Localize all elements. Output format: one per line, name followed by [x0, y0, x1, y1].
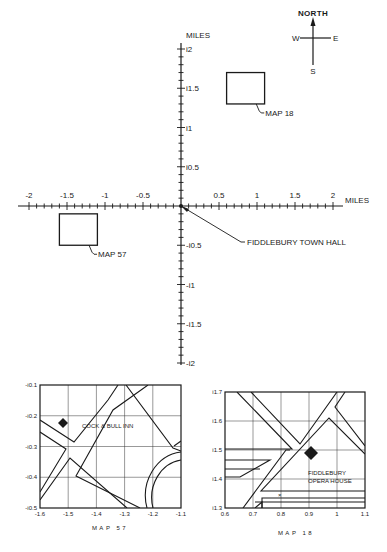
road	[40, 458, 127, 508]
map-57-region[interactable]	[59, 214, 97, 245]
road	[40, 432, 66, 492]
x-tick-label: 0.5	[213, 191, 225, 200]
main-chart: -2-1.5-1-0.50.511.52i2i1.5i1i0.5-i0.5-i1…	[18, 31, 369, 368]
town-hall-arrow-icon	[181, 206, 189, 212]
y-tick-label: i1.4	[212, 476, 222, 482]
road	[262, 498, 365, 508]
y-tick-label: i1.6	[212, 418, 222, 424]
x-tick-label: 1.5	[289, 191, 301, 200]
compass: NORTH S E W	[292, 9, 338, 76]
x-tick-label: 0.7	[249, 511, 258, 517]
x-tick-label: -0.5	[136, 191, 150, 200]
x-axis-unit: MILES	[345, 196, 369, 205]
road	[174, 441, 181, 446]
road	[335, 392, 365, 446]
x-tick-label: 2	[331, 191, 336, 200]
road	[251, 392, 337, 444]
y-tick-label: -i0.3	[25, 444, 37, 450]
y-axis-unit: MILES	[186, 31, 210, 40]
map-18-inset: × FIDDLEBURY OPERA HOUSE 0.60.70.80.911.…	[212, 389, 370, 536]
compass-east: E	[333, 34, 338, 43]
y-tick-label: -i2	[186, 359, 195, 368]
y-tick-label: i1.7	[212, 389, 222, 395]
x-tick-label: 1.1	[361, 511, 370, 517]
map-57-grid	[40, 385, 181, 508]
x-tick-label: -1.5	[60, 191, 74, 200]
opera-house-label-line2: OPERA HOUSE	[308, 478, 352, 484]
north-arrow-icon	[311, 17, 316, 26]
map-57-caption: MAP 57	[92, 525, 128, 531]
map-18-region[interactable]	[227, 73, 265, 104]
map-18-leader	[256, 104, 264, 113]
opera-house-marker-icon[interactable]	[304, 446, 318, 460]
x-tick-label: 0.8	[277, 511, 286, 517]
compass-north: NORTH	[298, 9, 328, 18]
y-tick-label: -i1.5	[186, 320, 202, 329]
road	[40, 385, 118, 442]
map-57-leader	[89, 245, 97, 254]
small-mark: ×	[278, 492, 282, 498]
x-tick-label: -1.4	[91, 511, 102, 517]
y-tick-label: -i1	[186, 281, 195, 290]
x-tick-label: 0.9	[305, 511, 314, 517]
y-tick-label: i1.5	[212, 447, 222, 453]
x-tick-label: -1.3	[119, 511, 130, 517]
road-curve	[152, 460, 181, 508]
compass-south: S	[310, 67, 315, 76]
y-tick-label: i1.5	[186, 84, 199, 93]
y-tick-label: -i0.5	[186, 241, 202, 250]
y-tick-label: i1.3	[212, 505, 222, 511]
y-tick-label: i0.5	[186, 163, 199, 172]
x-tick-label: 1	[255, 191, 260, 200]
compass-west: W	[292, 34, 300, 43]
inn-label: COCK & BULL INN	[82, 423, 133, 429]
x-tick-label: -2	[25, 191, 33, 200]
figure: NORTH S E W -2-1.5-1-0.50.511.52i2i1.5i1…	[0, 0, 387, 552]
x-tick-label: 1	[335, 511, 339, 517]
map-57-inset: COCK & BULL INN -1.6-1.5-1.4-1.3-1.2-1.1…	[25, 382, 187, 531]
opera-house-label-line1: FIDDLEBURY	[308, 470, 346, 476]
y-tick-label: i1	[186, 124, 193, 133]
x-tick-label: -1.6	[35, 511, 46, 517]
map-57-label: MAP 57	[98, 250, 127, 259]
map-18-label: MAP 18	[265, 109, 294, 118]
road	[255, 502, 262, 508]
x-tick-label: -1.5	[63, 511, 74, 517]
x-tick-label: 0.6	[221, 511, 230, 517]
y-tick-label: -i0.2	[25, 413, 37, 419]
x-tick-label: -1.1	[176, 511, 187, 517]
town-hall-label: FIDDLEBURY TOWN HALL	[247, 238, 347, 247]
road-curve	[145, 452, 181, 508]
x-tick-label: -1	[101, 191, 109, 200]
y-tick-label: -i0.1	[25, 382, 37, 388]
y-tick-label: -i0.5	[25, 505, 37, 511]
map-18-caption: MAP 18	[278, 530, 314, 536]
y-tick-label: i2	[186, 45, 193, 54]
inn-marker-icon[interactable]	[58, 418, 68, 428]
town-hall-leader	[181, 206, 245, 242]
x-tick-label: -1.2	[148, 511, 159, 517]
y-tick-label: -i0.4	[25, 474, 37, 480]
